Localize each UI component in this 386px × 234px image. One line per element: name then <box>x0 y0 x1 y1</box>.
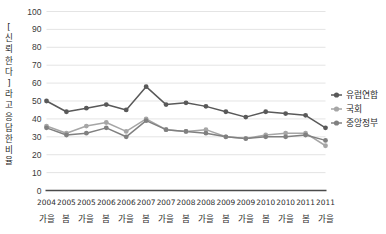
y-axis-tick-label: 0 <box>37 186 42 196</box>
x-axis-year-label: 2005 <box>77 198 96 207</box>
y-axis-tick-label: 80 <box>32 42 42 52</box>
legend-marker <box>334 120 339 125</box>
data-point-marker <box>323 125 328 130</box>
y-axis-tick-label: 50 <box>32 96 42 106</box>
data-point-marker <box>223 109 228 114</box>
x-axis-season-label: 가을 <box>278 214 294 224</box>
data-point-marker <box>263 109 268 114</box>
x-axis-season-label: 가을 <box>198 214 214 224</box>
data-point-marker <box>84 131 89 136</box>
y-axis-title-char: 율 <box>5 156 13 166</box>
data-point-marker <box>184 100 189 105</box>
legend-label: 중앙정부 <box>346 117 378 128</box>
y-axis-title-char: 신 <box>5 33 13 43</box>
y-axis-title-char: 다 <box>5 67 13 77</box>
data-point-marker <box>323 138 328 143</box>
x-axis-season-label: 가을 <box>39 214 55 224</box>
y-axis-title-char: 한 <box>5 56 13 66</box>
x-axis-tick-labels: 2004가을2005봄2005가을2006봄2006가을2007봄2007가을2… <box>37 198 335 224</box>
y-axis-tick-labels: 0102030405060708090100 <box>27 7 41 196</box>
x-axis-season-label: 봄 <box>62 214 70 224</box>
x-axis-season-label: 가을 <box>78 214 94 224</box>
y-axis-title-char: 고 <box>5 100 13 110</box>
y-axis-title-char: 한 <box>5 134 13 144</box>
y-axis-title: [신뢰한다]라고응답한비율 <box>5 22 13 166</box>
data-point-marker <box>144 84 149 89</box>
data-point-marker <box>124 134 129 139</box>
x-axis-season-label: 가을 <box>118 214 134 224</box>
y-axis-title-char: 뢰 <box>5 44 13 54</box>
data-point-marker <box>104 102 109 107</box>
data-point-marker <box>104 125 109 130</box>
y-axis-tick-label: 40 <box>32 114 42 124</box>
data-point-marker <box>164 127 169 132</box>
legend-marker <box>334 106 339 111</box>
data-point-marker <box>44 125 49 130</box>
x-axis-year-label: 2010 <box>276 198 295 207</box>
y-axis-tick-label: 30 <box>32 132 42 142</box>
y-axis-title-char: [ <box>7 22 10 32</box>
data-point-marker <box>223 134 228 139</box>
y-axis-tick-label: 100 <box>27 7 41 17</box>
x-axis-season-label: 봄 <box>142 214 150 224</box>
data-point-marker <box>64 133 69 138</box>
data-point-marker <box>204 131 209 136</box>
data-point-marker <box>263 134 268 139</box>
x-axis-season-label: 봄 <box>222 214 230 224</box>
legend-label: 유럽연합 <box>346 90 378 100</box>
chart-legend: 유럽연합국회중앙정부 <box>331 90 378 128</box>
data-point-marker <box>84 124 89 129</box>
series-markers <box>44 84 328 148</box>
data-point-marker <box>303 133 308 138</box>
chart-svg: 0102030405060708090100 [신뢰한다]라고응답한비율 200… <box>0 0 386 234</box>
x-axis-season-label: 봄 <box>182 214 190 224</box>
x-axis-season-label: 가을 <box>158 214 174 224</box>
x-axis-season-label: 봄 <box>102 214 110 224</box>
y-axis-title-char: 답 <box>5 122 13 133</box>
x-axis-season-label: 봄 <box>302 214 310 224</box>
data-point-marker <box>164 102 169 107</box>
data-point-marker <box>283 111 288 116</box>
x-axis-year-label: 2006 <box>97 198 116 207</box>
x-axis-year-label: 2009 <box>216 198 235 207</box>
data-point-marker <box>323 143 328 148</box>
x-axis-season-label: 가을 <box>318 214 334 224</box>
y-axis-title-char: 비 <box>5 145 13 155</box>
legend-label: 국회 <box>346 104 362 114</box>
x-axis-year-label: 2009 <box>236 198 255 207</box>
x-axis-year-label: 2008 <box>197 198 216 207</box>
legend-marker <box>334 92 339 97</box>
data-point-marker <box>124 129 129 134</box>
data-point-marker <box>283 134 288 139</box>
data-point-marker <box>104 120 109 125</box>
data-point-marker <box>44 99 49 104</box>
data-point-marker <box>124 108 129 113</box>
y-axis-title-char: 라 <box>5 89 13 99</box>
x-axis-season-label: 봄 <box>262 214 270 224</box>
y-axis-tick-label: 90 <box>32 24 42 34</box>
data-point-marker <box>243 136 248 141</box>
y-axis-tick-label: 70 <box>32 60 42 70</box>
x-axis-year-label: 2011 <box>296 198 315 207</box>
x-axis-year-label: 2008 <box>177 198 196 207</box>
y-axis-title-char: 응 <box>5 112 13 122</box>
x-axis-year-label: 2007 <box>137 198 156 207</box>
y-axis-title-char: ] <box>7 78 10 88</box>
x-axis-year-label: 2004 <box>37 198 56 207</box>
y-axis-tick-label: 60 <box>32 78 42 88</box>
data-point-marker <box>243 115 248 120</box>
data-point-marker <box>144 118 149 123</box>
x-axis-year-label: 2010 <box>256 198 275 207</box>
line-chart: 0102030405060708090100 [신뢰한다]라고응답한비율 200… <box>0 0 386 234</box>
data-point-marker <box>84 106 89 111</box>
y-axis-tick-label: 10 <box>32 168 42 178</box>
data-point-marker <box>204 104 209 109</box>
x-axis-year-label: 2006 <box>117 198 136 207</box>
data-point-marker <box>184 129 189 134</box>
x-axis-season-label: 가을 <box>238 214 254 224</box>
data-point-marker <box>303 113 308 118</box>
x-axis-year-label: 2007 <box>157 198 176 207</box>
x-axis-year-label: 2011 <box>316 198 335 207</box>
x-axis-year-label: 2005 <box>57 198 76 207</box>
data-point-marker <box>64 109 69 114</box>
